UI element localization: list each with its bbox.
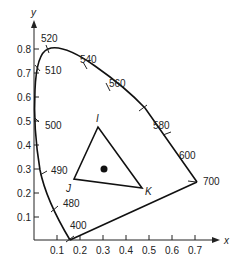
x-axis-label: x xyxy=(223,235,230,246)
line-of-purples xyxy=(70,182,197,240)
y-tick-label: 0.2 xyxy=(17,188,31,199)
wavelength-label-600: 600 xyxy=(179,150,196,161)
wavelength-label-580: 580 xyxy=(153,120,170,131)
chromaticity-diagram: y x 0.1 0.2 0.3 0.4 0.5 0.6 0.7 0.1 0.2 … xyxy=(0,0,242,275)
spectral-locus-curve xyxy=(35,48,197,240)
wavelength-label-540: 540 xyxy=(80,54,97,65)
wavelength-label-560: 560 xyxy=(109,78,126,89)
x-axis-arrow-icon xyxy=(212,237,220,243)
gamut-triangle xyxy=(74,127,142,188)
y-tick-label: 0.4 xyxy=(17,140,31,151)
y-tick-label: 0.3 xyxy=(17,164,31,175)
y-tick-label: 0.6 xyxy=(17,92,31,103)
vertex-label-i: I xyxy=(96,113,99,124)
wavelength-label-480: 480 xyxy=(63,198,80,209)
wavelength-label-400: 400 xyxy=(70,220,87,231)
x-tick-label: 0.1 xyxy=(50,245,64,256)
x-tick-label: 0.7 xyxy=(188,245,202,256)
x-tick-label: 0.4 xyxy=(119,245,133,256)
x-tick-label: 0.2 xyxy=(73,245,87,256)
x-tick-label: 0.3 xyxy=(96,245,110,256)
white-point-dot xyxy=(101,166,108,173)
y-axis-label: y xyxy=(30,7,37,18)
y-tick-label: 0.7 xyxy=(17,68,31,79)
wavelength-label-500: 500 xyxy=(45,120,62,131)
wavelength-label-520: 520 xyxy=(41,33,58,44)
wavelength-label-510: 510 xyxy=(45,65,62,76)
wavelength-label-490: 490 xyxy=(51,165,68,176)
x-tick-label: 0.6 xyxy=(165,245,179,256)
wavelength-label-700: 700 xyxy=(203,176,220,187)
vertex-label-k: K xyxy=(145,186,153,197)
vertex-label-j: J xyxy=(65,183,72,194)
y-tick-label: 0.5 xyxy=(17,116,31,127)
y-axis-arrow-icon xyxy=(31,20,37,28)
x-tick-label: 0.5 xyxy=(142,245,156,256)
y-tick-label: 0.8 xyxy=(17,44,31,55)
y-tick-label: 0.1 xyxy=(17,212,31,223)
